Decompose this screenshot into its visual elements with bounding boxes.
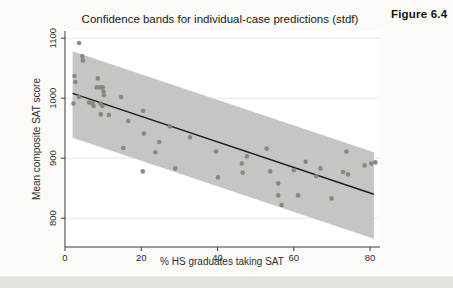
data-point: [121, 146, 126, 151]
data-point: [168, 124, 173, 129]
data-point: [80, 54, 85, 59]
data-point: [101, 85, 106, 90]
data-point: [369, 161, 374, 166]
data-point: [141, 109, 146, 114]
data-point: [102, 93, 107, 98]
data-point: [362, 163, 367, 168]
data-point: [119, 95, 124, 100]
data-point: [373, 160, 378, 165]
data-point: [73, 80, 78, 85]
y-tick-label: 900: [47, 150, 58, 166]
confidence-band-chart: 80090010001100020406080 Confidence bands…: [0, 0, 453, 277]
data-point: [276, 181, 281, 186]
x-tick-label: 20: [136, 252, 147, 263]
scan-edge: [0, 276, 453, 288]
data-point: [126, 119, 131, 124]
data-point: [240, 170, 245, 175]
x-axis-title: % HS graduates taking SAT: [160, 256, 284, 267]
data-point: [318, 166, 323, 171]
data-point: [107, 113, 112, 118]
data-point: [188, 135, 193, 140]
chart-title: Confidence bands for individual-case pre…: [82, 13, 359, 25]
data-point: [292, 168, 297, 173]
data-point: [99, 112, 104, 117]
data-point: [341, 170, 346, 175]
data-point: [100, 104, 105, 109]
data-point: [216, 175, 221, 180]
y-tick-label: 1000: [47, 88, 58, 109]
data-point: [96, 76, 101, 81]
y-tick-label: 800: [47, 210, 58, 226]
data-point: [91, 104, 96, 109]
data-point: [346, 172, 351, 177]
data-point: [81, 58, 86, 63]
data-point: [314, 174, 319, 179]
figure-page: 80090010001100020406080 Confidence bands…: [0, 0, 453, 288]
data-point: [245, 154, 250, 159]
data-point: [142, 131, 147, 136]
data-point: [141, 169, 146, 174]
data-point: [279, 203, 284, 208]
x-tick-label: 0: [62, 252, 67, 263]
x-tick-label: 60: [289, 252, 300, 263]
data-point: [240, 161, 245, 166]
data-point: [276, 193, 281, 198]
data-point: [173, 166, 178, 171]
y-tick-label: 1100: [47, 28, 58, 48]
data-point: [153, 150, 158, 155]
data-point: [264, 146, 269, 151]
x-tick-label: 80: [365, 252, 376, 263]
data-point: [214, 149, 219, 154]
data-point: [71, 101, 76, 106]
data-point: [77, 41, 82, 46]
data-point: [296, 193, 301, 198]
data-point: [344, 149, 349, 154]
figure-number-label: Figure 6.4: [391, 8, 447, 20]
data-point: [77, 95, 82, 100]
data-point: [303, 160, 308, 165]
data-point: [157, 140, 162, 145]
data-point: [72, 74, 77, 79]
y-axis-title: Mean composite SAT score: [31, 78, 42, 200]
data-point: [268, 169, 273, 174]
data-point: [329, 196, 334, 201]
